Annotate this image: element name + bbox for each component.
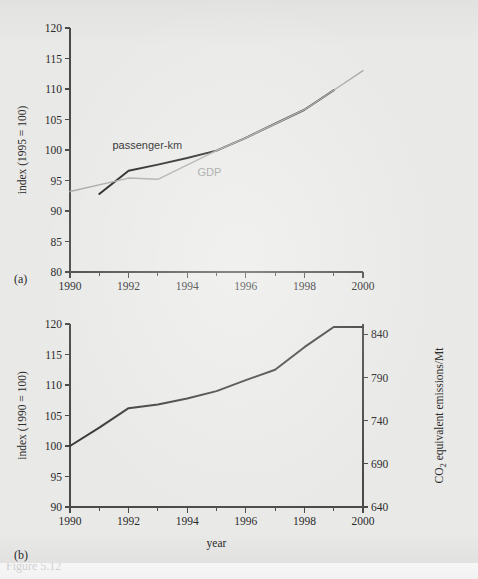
x-tick-label: 1996 xyxy=(234,280,257,292)
y-tick-label: 110 xyxy=(45,83,62,95)
x-tick-label: 2000 xyxy=(352,515,375,527)
series-label-passenger-km: passenger-km xyxy=(112,139,182,151)
chart-panel-a: 8085909510010511011512019901992199419961… xyxy=(0,0,478,295)
x-tick-label: 1998 xyxy=(293,515,316,527)
caption-remnant: Figure 5.12 xyxy=(0,563,478,579)
panel-b-plot: 9095100105110115120199019921994199619982… xyxy=(0,300,478,562)
y-axis-title: index (1995 = 100) xyxy=(16,106,29,195)
y-tick-label: 80 xyxy=(51,266,63,278)
x-tick-label: 1990 xyxy=(59,280,82,292)
x-tick-label: 1990 xyxy=(59,515,82,527)
y-tick-label: 90 xyxy=(51,205,63,217)
y-tick-label-right: 690 xyxy=(371,458,389,470)
y-tick-label: 100 xyxy=(45,440,63,452)
y-tick-label: 85 xyxy=(51,236,63,248)
y-tick-label: 115 xyxy=(45,349,62,361)
y-tick-label-right: 640 xyxy=(371,501,389,513)
y-tick-label: 90 xyxy=(51,501,63,513)
x-tick-label: 1994 xyxy=(176,280,199,292)
panel-a-label: (a) xyxy=(14,272,27,287)
series-line-co2-equivalent-emissions-index xyxy=(70,327,363,446)
y-tick-label-right: 790 xyxy=(371,372,389,384)
x-tick-label: 1998 xyxy=(293,280,316,292)
y-tick-label-right: 740 xyxy=(371,415,389,427)
y-tick-label: 120 xyxy=(45,22,63,34)
chart-panel-b: 9095100105110115120199019921994199619982… xyxy=(0,300,478,562)
series-label-gdp: GDP xyxy=(197,166,221,178)
panel-a-plot: 8085909510010511011512019901992199419961… xyxy=(0,0,478,295)
y-tick-label: 100 xyxy=(45,144,63,156)
y-axis-title: index (1990 = 100) xyxy=(16,371,29,460)
y-tick-label: 105 xyxy=(45,114,63,126)
panel-b-label: (b) xyxy=(14,548,28,563)
x-tick-label: 1992 xyxy=(117,515,140,527)
y-tick-label: 120 xyxy=(45,318,63,330)
x-axis-title: year xyxy=(207,537,227,550)
y-tick-label: 105 xyxy=(45,410,63,422)
axis-frame xyxy=(70,324,363,507)
figure-container: 8085909510010511011512019901992199419961… xyxy=(0,0,478,579)
y-axis-title-right: CO2 equivalent emissions/Mt xyxy=(433,347,448,484)
y-tick-label: 95 xyxy=(51,175,63,187)
x-tick-label: 2000 xyxy=(352,280,375,292)
y-tick-label-right: 840 xyxy=(371,328,389,340)
caption-remnant-text: Figure 5.12 xyxy=(6,563,61,574)
y-tick-label: 115 xyxy=(45,53,62,65)
y-tick-label: 110 xyxy=(45,379,62,391)
x-tick-label: 1992 xyxy=(117,280,140,292)
x-tick-label: 1994 xyxy=(176,515,199,527)
y-tick-label: 95 xyxy=(51,471,63,483)
x-tick-label: 1996 xyxy=(234,515,257,527)
